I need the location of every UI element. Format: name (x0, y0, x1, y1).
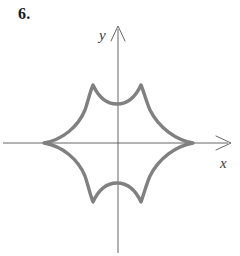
plot-canvas: y x (0, 0, 240, 256)
curve-six-cusped (44, 85, 193, 202)
y-axis-label: y (97, 27, 106, 43)
x-axis-label: x (219, 155, 227, 171)
figure-container: 6. y x (0, 0, 240, 256)
